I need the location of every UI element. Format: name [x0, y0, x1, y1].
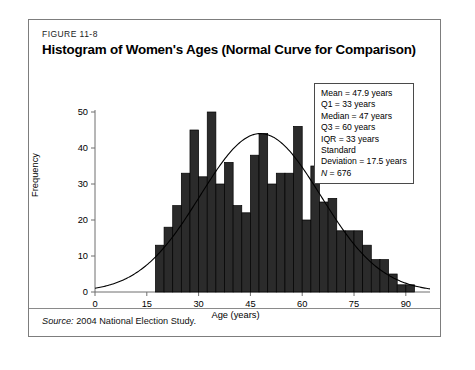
- histogram-bar: [389, 274, 398, 292]
- histogram-bar: [207, 112, 216, 292]
- stat-deviation: Deviation = 17.5 years: [321, 156, 407, 167]
- stat-median: Median = 47 years: [321, 111, 407, 122]
- y-tick-label: 0: [83, 287, 88, 297]
- x-axis-ticks: 0153045607590: [92, 292, 411, 309]
- histogram-bar: [354, 231, 363, 292]
- figure-card: FIGURE 11-8 Histogram of Women's Ages (N…: [28, 19, 441, 337]
- histogram-bar: [345, 231, 354, 292]
- stat-q1: Q1 = 33 years: [321, 99, 407, 110]
- histogram-bar: [259, 134, 268, 292]
- source-text: 2004 National Election Study.: [74, 316, 196, 326]
- histogram-bar: [216, 184, 225, 292]
- histogram-bar: [285, 173, 294, 292]
- histogram-bar: [190, 130, 199, 292]
- histogram-bar: [294, 126, 303, 292]
- histogram-bar: [363, 245, 372, 292]
- y-axis-ticks: 01020304050: [78, 107, 95, 297]
- histogram-bar: [225, 162, 234, 292]
- y-tick-label: 10: [78, 251, 88, 261]
- histogram-bar: [199, 177, 208, 292]
- histogram-bar: [397, 285, 406, 292]
- histogram-bar: [181, 173, 190, 292]
- histogram-bar: [311, 166, 320, 292]
- y-axis-title: Frequency: [30, 153, 40, 197]
- histogram-bar: [380, 260, 389, 292]
- stat-q3: Q3 = 60 years: [321, 122, 407, 133]
- footer-divider: [29, 308, 440, 309]
- y-tick-label: 50: [78, 107, 88, 117]
- histogram-bar: [302, 220, 311, 292]
- histogram-bar: [319, 202, 328, 292]
- histogram-bar: [328, 198, 337, 292]
- histogram-bar: [337, 231, 346, 292]
- stat-mean: Mean = 47.9 years: [321, 88, 407, 99]
- histogram-bar: [164, 227, 173, 292]
- y-tick-label: 20: [78, 215, 88, 225]
- stat-n: N = 676: [321, 168, 407, 179]
- histogram-bar: [276, 173, 285, 292]
- stat-n-value: = 676: [327, 168, 351, 178]
- histogram-bar: [250, 155, 259, 292]
- source-label: Source:: [42, 316, 74, 326]
- stat-standard: Standard: [321, 145, 407, 156]
- y-tick-label: 40: [78, 143, 88, 153]
- source-line: Source: 2004 National Election Study.: [42, 316, 196, 326]
- histogram-bar: [268, 184, 277, 292]
- y-tick-label: 30: [78, 179, 88, 189]
- statistics-box: Mean = 47.9 years Q1 = 33 years Median =…: [314, 83, 414, 184]
- histogram-bar: [233, 206, 242, 292]
- histogram-bar: [371, 260, 380, 292]
- histogram-bar: [242, 213, 251, 292]
- histogram-bar: [173, 206, 182, 292]
- stat-iqr: IQR = 33 years: [321, 134, 407, 145]
